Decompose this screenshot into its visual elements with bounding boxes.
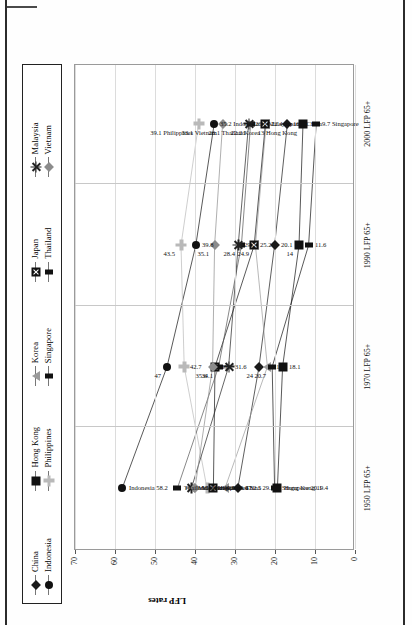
data-point-label: 28.4 — [224, 250, 236, 257]
legend-label: Philippines — [44, 428, 53, 467]
chart-legend: ChinaIndonesiaHong KongPhilippinesKoreaS… — [22, 64, 62, 604]
legend-label: Hong Kong — [31, 427, 40, 468]
legend-line-swatch — [35, 262, 36, 282]
y-axis-tick-mark — [75, 550, 76, 554]
legend-label: Vietnam — [44, 125, 53, 154]
data-point-label: 16.9 China — [293, 120, 322, 127]
circle-marker-icon — [192, 241, 200, 249]
circle-marker-icon — [45, 581, 53, 589]
y-axis-tick-label: 70 — [70, 557, 79, 579]
legend-column-0: ChinaIndonesia — [31, 491, 53, 595]
legend-item-vietnam[interactable]: Vietnam — [44, 73, 53, 177]
y-axis-tick-label: 50 — [150, 557, 159, 579]
series-line-vietnam — [195, 124, 223, 489]
y-axis-tick-mark — [195, 550, 196, 554]
data-point-label: 34.1 — [201, 372, 213, 379]
horizontal-gridline — [195, 65, 196, 549]
data-point-label: 42.7 — [190, 363, 202, 370]
legend-item-korea[interactable]: Korea — [31, 282, 40, 386]
legend-label: Japan — [31, 239, 40, 259]
data-point-label: 39.8 — [202, 241, 214, 248]
legend-item-japan[interactable]: Japan — [31, 177, 40, 281]
plus-gray-marker-icon — [179, 361, 190, 372]
legend-column-4: MalaysiaVietnam — [31, 73, 53, 177]
page-left-border — [5, 0, 7, 625]
plot-area: 0102030405060701950 LFP 65+1970 LFP 65+1… — [74, 64, 354, 550]
y-axis-tick-label: 20 — [270, 557, 279, 579]
y-axis-tick-mark — [275, 550, 276, 554]
legend-label: Singapore — [44, 328, 53, 363]
legend-line-swatch — [48, 366, 49, 386]
data-point-label: 20.7 — [255, 372, 267, 379]
y-axis-tick-mark — [355, 550, 356, 554]
data-point-label: 31.6 — [235, 363, 247, 370]
legend-item-china[interactable]: China — [31, 491, 40, 595]
y-axis-tick-mark — [155, 550, 156, 554]
legend-item-philippines[interactable]: Philippines — [44, 386, 53, 490]
legend-line-swatch — [35, 157, 36, 177]
data-point-label: 22.2 Korea — [231, 129, 260, 136]
rotated-chart-canvas: ChinaIndonesiaHong KongPhilippinesKoreaS… — [16, 12, 396, 612]
legend-item-thailand[interactable]: Thailand — [44, 177, 53, 281]
diamond-marker-icon — [31, 580, 41, 590]
legend-line-swatch — [48, 262, 49, 282]
data-point-label: 20.1 — [281, 241, 293, 248]
circle-marker-icon — [163, 363, 171, 371]
legend-item-malaysia[interactable]: Malaysia — [31, 73, 40, 177]
horizontal-gridline — [75, 65, 76, 549]
data-point-label: 35 — [221, 363, 228, 370]
y-axis-tick-label: 40 — [190, 557, 199, 579]
circle-marker-icon — [118, 484, 126, 492]
horizontal-gridline — [235, 65, 236, 549]
plus-gray-marker-icon — [43, 475, 54, 486]
data-point-label: 21.9 — [273, 363, 285, 370]
legend-label: Malaysia — [31, 122, 40, 154]
legend-line-swatch — [48, 471, 49, 491]
legend-item-singapore[interactable]: Singapore — [44, 282, 53, 386]
plus-gray-marker-icon — [193, 118, 204, 129]
legend-column-2: KoreaSingapore — [31, 282, 53, 386]
data-point-label: 24 — [246, 372, 253, 379]
plus-gray-marker-icon — [176, 240, 187, 251]
star-marker-icon — [30, 162, 41, 173]
data-point-label: 43.5 — [163, 250, 175, 257]
page-right-border — [403, 0, 405, 625]
data-point-label: Indonesia 58.2 — [129, 484, 168, 491]
data-point-label: 14 — [286, 250, 293, 257]
data-point-label: 35.2 Indonesia — [220, 120, 259, 127]
legend-item-hong-kong[interactable]: Hong Kong — [31, 386, 40, 490]
x-axis-tick-label: 2000 LFP 65+ — [363, 79, 372, 169]
legend-column-1: Hong KongPhilippines — [31, 386, 53, 490]
horizontal-gridline — [155, 65, 156, 549]
vertical-gridline — [75, 305, 353, 306]
legend-label: Korea — [31, 342, 40, 363]
tri-marker-icon — [32, 371, 40, 381]
x-axis-tick-label: 1970 LFP 65+ — [363, 322, 372, 412]
horizontal-gridline — [275, 65, 276, 549]
diamond-gray-marker-icon — [44, 162, 54, 172]
data-point-label: Hong Kong 19.4 — [284, 484, 328, 491]
y-axis-tick-label: 30 — [230, 557, 239, 579]
square-sm-marker-icon — [173, 486, 181, 491]
horizontal-gridline — [315, 65, 316, 549]
square-sm-marker-icon — [45, 374, 53, 379]
legend-line-swatch — [35, 366, 36, 386]
y-axis-tick-label: 60 — [110, 557, 119, 579]
series-line-japan — [213, 124, 265, 489]
series-line-malaysia — [191, 124, 248, 489]
legend-column-3: JapanThailand — [31, 177, 53, 281]
y-axis-tick-mark — [115, 550, 116, 554]
legend-item-indonesia[interactable]: Indonesia — [44, 491, 53, 595]
legend-line-swatch — [35, 471, 36, 491]
legend-line-swatch — [35, 575, 36, 595]
legend-line-swatch — [48, 157, 49, 177]
data-point-label: 35.1 — [197, 250, 209, 257]
x-axis-tick-label: 1990 LFP 65+ — [363, 200, 372, 290]
vertical-gridline — [75, 427, 353, 428]
data-point-label: 9.7 Singapore — [322, 120, 359, 127]
data-point-label: 18.1 — [289, 363, 301, 370]
data-point-label: 25.2 — [260, 241, 272, 248]
xbox-marker-icon — [31, 267, 40, 276]
scanned-page: ChinaIndonesiaHong KongPhilippinesKoreaS… — [0, 0, 412, 625]
data-point-label: 11.6 — [315, 241, 326, 248]
